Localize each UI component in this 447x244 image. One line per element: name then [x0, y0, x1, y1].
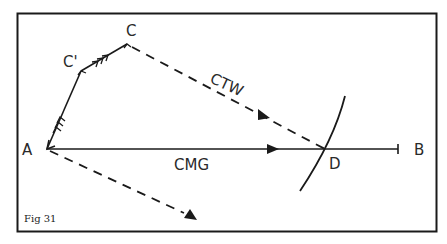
label-b: B [414, 141, 424, 159]
cmg-vector [47, 144, 398, 154]
label-c-prime: C' [63, 53, 78, 71]
triple-chevron-icon [53, 117, 65, 133]
arrowhead-icon [258, 109, 270, 120]
track-a-to-c-prime [47, 71, 86, 149]
vector-diagram: A C' C CTW CMG D B Fig 31 [0, 0, 447, 244]
track-c-prime-to-c [81, 44, 131, 71]
ctw-vector [132, 47, 325, 149]
label-a: A [22, 141, 33, 159]
arrowhead-icon [184, 209, 197, 220]
tick-c-prime-icon [78, 71, 86, 75]
label-ctw: CTW [207, 69, 246, 100]
label-c: C [126, 22, 136, 40]
label-cmg: CMG [174, 156, 209, 174]
arrowhead-icon [267, 144, 279, 154]
figure-caption: Fig 31 [24, 213, 56, 224]
figure-frame [18, 14, 437, 232]
label-d: D [329, 155, 341, 173]
distance-arc [300, 96, 345, 191]
